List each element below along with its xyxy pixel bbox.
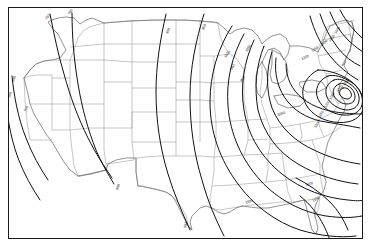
contour-650 [6,92,40,200]
contour-label: 1100 [313,120,320,128]
contour-850 [190,14,224,236]
contour-ne-d [340,10,368,42]
contour-750 [72,13,114,184]
contour-label: 800 [165,27,171,34]
contour-label: 850 [201,23,207,30]
contour-label: 950 [239,75,245,82]
contour-label: 650 [7,92,13,99]
contour-label: 1000 [245,199,254,205]
contour-map-figure: 6006507007007508008008509009009501000100… [0,0,371,247]
map-canvas: 6006507007007508008008509009009501000100… [0,0,371,247]
contour-label: 700 [23,105,29,112]
contour-se-b [300,196,331,244]
contour-label: 1200 [301,54,310,61]
contour-label: 1050 [277,111,286,117]
contour-label: 800 [115,184,121,191]
contour-label: 1100 [305,181,313,187]
contour-label: 750 [67,8,73,15]
contour-labels: 6006507007007508008008509009009501000100… [7,8,350,228]
contour-label: 900 [229,63,235,70]
contour-700 [50,14,112,178]
contour-label: 1100 [312,196,320,203]
contour-label: 900 [183,222,188,229]
contour-label: 600 [11,76,17,83]
